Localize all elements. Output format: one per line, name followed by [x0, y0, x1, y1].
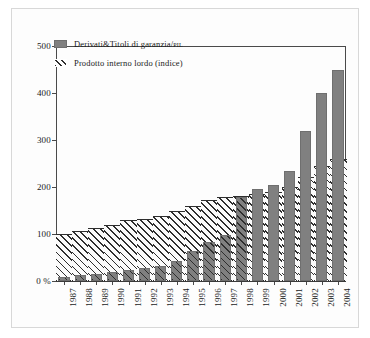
x-tick-label: 1996: [213, 288, 223, 307]
solid-gray-swatch: [54, 40, 67, 48]
x-tick-label: 1997: [229, 288, 239, 307]
bar-mark: [139, 268, 150, 281]
x-tick-mark: [145, 282, 146, 285]
x-tick-label: 1993: [165, 288, 175, 307]
y-tick-mark: [52, 140, 56, 141]
x-tick-label: 2001: [294, 288, 304, 307]
bar-mark: [107, 272, 118, 281]
y-tick-mark: [52, 93, 56, 94]
bar-mark: [187, 251, 198, 281]
x-tick-mark: [338, 282, 339, 285]
bar-mark: [171, 261, 182, 281]
x-tick-mark: [80, 282, 81, 285]
x-tick-mark: [257, 282, 258, 285]
x-tick-mark: [96, 282, 97, 285]
y-tick-label: 200: [37, 182, 51, 192]
bar-mark: [332, 70, 343, 281]
x-tick-mark: [112, 282, 113, 285]
x-tick-label: 1994: [181, 288, 191, 307]
x-tick-label: 1999: [261, 288, 271, 307]
legend-suffix-pil: PIL: [173, 42, 182, 48]
legend-label-derivati: Derivati&Titoli di garanzia/PIL: [74, 39, 183, 49]
x-tick-mark: [290, 282, 291, 285]
y-tick-label: 300: [37, 135, 51, 145]
bar-mark: [316, 93, 327, 281]
bar-mark: [123, 270, 134, 281]
x-tick-mark: [241, 282, 242, 285]
plot-area: 0 %100200300400500 198719881989199019911…: [56, 46, 346, 281]
x-tick-label: 1989: [100, 288, 110, 307]
x-tick-label: 2004: [342, 288, 352, 307]
legend-item-pil: Prodotto interno lordo (indice): [54, 55, 183, 70]
y-tick-label: 400: [37, 88, 51, 98]
x-tick-mark: [274, 282, 275, 285]
bar-mark: [300, 131, 311, 281]
legend-item-derivati: Derivati&Titoli di garanzia/PIL: [54, 36, 183, 51]
y-tick-label: 100: [37, 229, 51, 239]
x-tick-mark: [129, 282, 130, 285]
x-tick-mark: [322, 282, 323, 285]
y-tick-label: 0 %: [36, 276, 51, 286]
bar-mark: [58, 277, 69, 281]
x-tick-mark: [209, 282, 210, 285]
x-tick-label: 1998: [245, 288, 255, 307]
x-tick-label: 1987: [68, 288, 78, 307]
hatched-swatch: [54, 59, 67, 67]
x-tick-mark: [64, 282, 65, 285]
bar-mark: [268, 185, 279, 281]
x-tick-label: 1990: [116, 288, 126, 307]
area-step: [72, 231, 89, 281]
bar-mark: [236, 197, 247, 281]
x-tick-mark: [306, 282, 307, 285]
x-tick-mark: [161, 282, 162, 285]
x-tick-mark: [177, 282, 178, 285]
y-tick-mark: [52, 187, 56, 188]
bar-mark: [91, 274, 102, 281]
bar-mark: [252, 189, 263, 281]
chart-figure-frame: 0 %100200300400500 198719881989199019911…: [11, 8, 359, 328]
legend-label-pil: Prodotto interno lordo (indice): [74, 58, 183, 68]
x-tick-label: 1988: [84, 288, 94, 307]
bar-mark: [203, 242, 214, 281]
x-tick-mark: [193, 282, 194, 285]
chart-legend: Derivati&Titoli di garanzia/PIL Prodotto…: [54, 36, 183, 74]
x-tick-label: 1995: [197, 288, 207, 307]
x-tick-label: 1992: [149, 288, 159, 307]
bar-mark: [75, 275, 86, 281]
area-step: [56, 234, 73, 281]
bar-mark: [220, 235, 231, 281]
x-tick-label: 2002: [310, 288, 320, 307]
y-tick-mark: [52, 281, 56, 282]
y-tick-label: 500: [37, 41, 51, 51]
x-tick-label: 1991: [133, 288, 143, 307]
bar-mark: [284, 171, 295, 281]
x-tick-mark: [225, 282, 226, 285]
x-tick-label: 2000: [278, 288, 288, 307]
x-tick-label: 2003: [326, 288, 336, 307]
bar-mark: [155, 266, 166, 282]
